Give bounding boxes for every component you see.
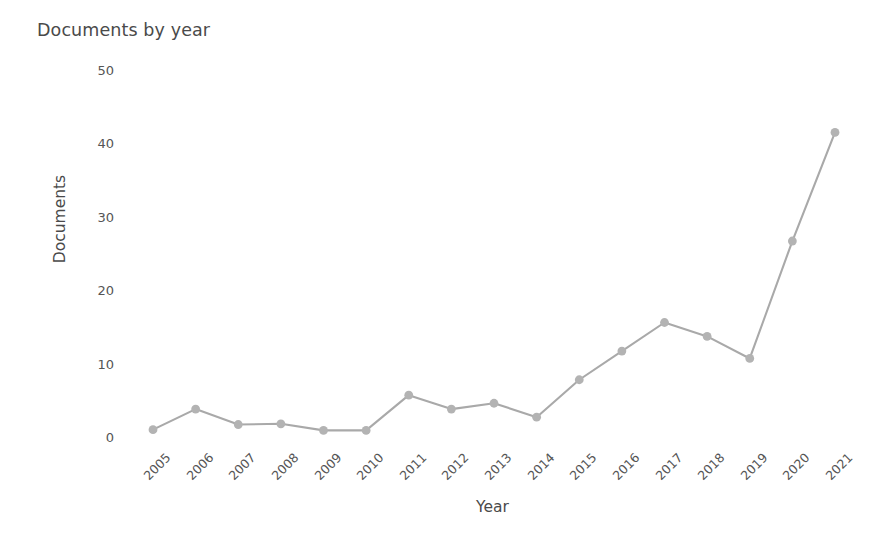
data-point-marker: [149, 425, 158, 434]
data-point-marker: [617, 347, 626, 356]
data-point-marker: [660, 318, 669, 327]
data-point-marker: [234, 420, 243, 429]
data-point-marker: [447, 405, 456, 414]
data-point-marker: [276, 419, 285, 428]
plot-area: [0, 0, 885, 537]
data-point-marker: [362, 426, 371, 435]
data-point-marker: [490, 399, 499, 408]
data-point-marker: [532, 413, 541, 422]
data-point-marker: [703, 332, 712, 341]
data-point-marker: [788, 237, 797, 246]
documents-by-year-chart: Documents by year Documents Year 0102030…: [0, 0, 885, 537]
data-point-marker: [745, 354, 754, 363]
series-markers-documents: [149, 128, 840, 435]
data-point-marker: [191, 405, 200, 414]
data-point-marker: [575, 375, 584, 384]
data-point-marker: [831, 128, 840, 137]
data-point-marker: [404, 391, 413, 400]
series-line-documents: [153, 132, 835, 430]
data-point-marker: [319, 426, 328, 435]
